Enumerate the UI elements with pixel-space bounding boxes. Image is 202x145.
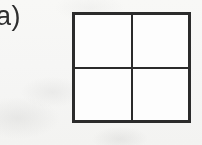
grid-cell-bottom-left [75,68,132,121]
grid-cell-top-right [132,15,189,68]
grid-square-2x2 [72,12,191,123]
grid-cell-bottom-right [132,68,189,121]
panel-label: a) [0,1,21,31]
grid-cell-top-left [75,15,132,68]
figure-panel: a) [0,0,202,145]
